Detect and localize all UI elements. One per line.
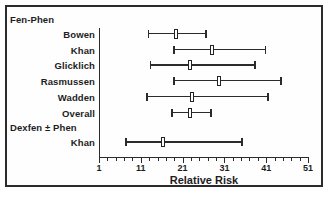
x-axis-minor-tick bbox=[233, 158, 234, 161]
confidence-interval-row bbox=[99, 107, 308, 119]
confidence-interval-line bbox=[150, 64, 255, 65]
point-estimate-marker bbox=[210, 45, 214, 55]
confidence-interval-row bbox=[99, 91, 308, 103]
group-heading: Dexfen ± Phen bbox=[10, 122, 77, 133]
point-estimate-marker bbox=[161, 137, 165, 147]
x-axis-minor-tick bbox=[300, 158, 301, 161]
x-axis-tick-label: 31 bbox=[219, 163, 229, 173]
x-axis-minor-tick bbox=[132, 158, 133, 161]
ci-upper-cap bbox=[280, 77, 281, 85]
ci-lower-cap bbox=[125, 138, 126, 146]
x-axis-minor-tick bbox=[116, 158, 117, 161]
x-axis-minor-tick bbox=[149, 158, 150, 161]
ci-upper-cap bbox=[254, 61, 255, 69]
ci-upper-cap bbox=[265, 46, 266, 54]
x-axis-minor-tick bbox=[216, 158, 217, 161]
point-estimate-marker bbox=[174, 29, 178, 39]
x-axis-minor-tick bbox=[249, 158, 250, 161]
ci-upper-cap bbox=[241, 138, 242, 146]
x-axis-minor-tick bbox=[241, 158, 242, 161]
x-axis-minor-tick bbox=[124, 158, 125, 161]
point-estimate-marker bbox=[188, 108, 192, 118]
confidence-interval-row bbox=[99, 59, 308, 71]
x-axis-minor-tick bbox=[291, 158, 292, 161]
x-axis-tick-label: 11 bbox=[136, 163, 146, 173]
x-axis-minor-tick bbox=[166, 158, 167, 161]
study-label: Khan bbox=[71, 45, 95, 56]
ci-lower-cap bbox=[150, 61, 151, 69]
x-axis-minor-tick bbox=[191, 158, 192, 161]
confidence-interval-row bbox=[99, 75, 308, 87]
x-axis-tick-label: 51 bbox=[303, 163, 313, 173]
x-axis-minor-tick bbox=[158, 158, 159, 161]
confidence-interval-row bbox=[99, 44, 308, 56]
plot-area bbox=[99, 28, 308, 157]
point-estimate-marker bbox=[188, 60, 192, 70]
ci-lower-cap bbox=[173, 46, 174, 54]
x-axis-line bbox=[99, 157, 309, 158]
study-label: Overall bbox=[62, 108, 95, 119]
x-axis-minor-tick bbox=[208, 158, 209, 161]
x-axis-minor-tick bbox=[275, 158, 276, 161]
ci-lower-cap bbox=[173, 77, 174, 85]
confidence-interval-line bbox=[174, 80, 281, 81]
ci-lower-cap bbox=[146, 93, 147, 101]
confidence-interval-line bbox=[174, 49, 266, 50]
confidence-interval-row bbox=[99, 28, 308, 40]
study-label: Rasmussen bbox=[41, 76, 95, 87]
confidence-interval-line bbox=[126, 141, 242, 142]
study-label: Khan bbox=[71, 137, 95, 148]
ci-upper-cap bbox=[205, 30, 206, 38]
ci-upper-cap bbox=[267, 93, 268, 101]
group-heading: Fen-Phen bbox=[10, 14, 54, 25]
x-axis-minor-tick bbox=[174, 158, 175, 161]
x-axis-tick-label: 21 bbox=[178, 163, 188, 173]
point-estimate-marker bbox=[217, 76, 221, 86]
point-estimate-marker bbox=[190, 92, 194, 102]
study-label: Bowen bbox=[63, 29, 95, 40]
ci-upper-cap bbox=[210, 109, 211, 117]
study-label: Glicklich bbox=[54, 60, 95, 71]
x-axis-minor-tick bbox=[283, 158, 284, 161]
study-label: Wadden bbox=[58, 92, 95, 103]
x-axis-minor-tick bbox=[199, 158, 200, 161]
x-axis-minor-tick bbox=[107, 158, 108, 161]
confidence-interval-row bbox=[99, 136, 308, 148]
x-axis-tick-label: 1 bbox=[96, 163, 101, 173]
forest-plot-figure: 11121314151 Relative Risk Fen-PhenBowenK… bbox=[0, 0, 329, 200]
x-axis-minor-tick bbox=[258, 158, 259, 161]
confidence-interval-line bbox=[147, 96, 268, 97]
ci-lower-cap bbox=[148, 30, 149, 38]
ci-lower-cap bbox=[171, 109, 172, 117]
x-axis-tick-label: 41 bbox=[261, 163, 271, 173]
x-axis-title: Relative Risk bbox=[99, 174, 309, 186]
